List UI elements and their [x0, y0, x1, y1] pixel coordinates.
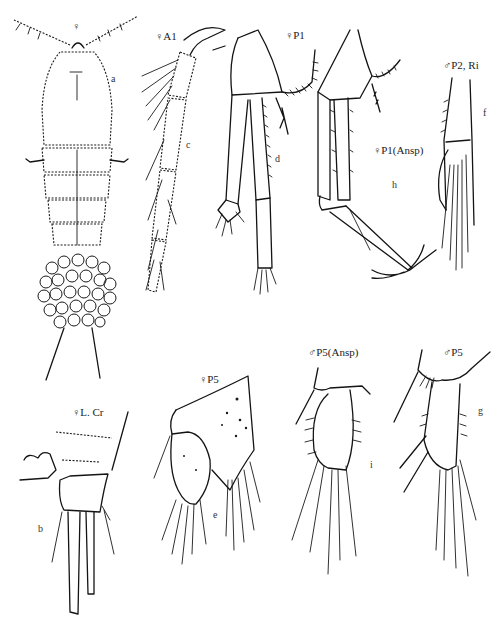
figure-plate: ♀ a ♀A1 c ♀P1 d ♀P1(Ansp) h ♂P2, Ri f ♀L…	[0, 0, 504, 633]
figure-b-caudal-ramus-drawing	[20, 412, 128, 614]
figure-b-title: ♀L. Cr	[72, 406, 103, 418]
figure-a-title: ♀	[72, 20, 80, 32]
figure-g-title: ♂P5	[443, 346, 463, 358]
figure-f-title: ♂P2, Ri	[443, 59, 479, 71]
figure-e-letter: e	[213, 510, 217, 520]
figure-d-letter: d	[275, 154, 280, 164]
plate-drawings	[0, 0, 504, 633]
figure-d-leg1-drawing	[216, 30, 318, 294]
figure-g-letter: g	[478, 406, 483, 416]
figure-h-title: ♀P1(Ansp)	[373, 144, 423, 156]
figure-a-habitus-drawing	[14, 16, 138, 380]
figure-i-leg5-ansp-drawing	[292, 368, 370, 574]
figure-b-letter: b	[38, 524, 43, 534]
figure-f-leg2-endopod-drawing	[439, 78, 474, 270]
figure-d-title: ♀P1	[285, 29, 305, 41]
figure-i-letter: i	[370, 460, 373, 470]
figure-g-leg5-drawing	[394, 350, 490, 576]
figure-i-title: ♂P5(Ansp)	[308, 346, 358, 358]
figure-e-title: ♀P5	[199, 373, 219, 385]
figure-c-antennule-drawing	[142, 28, 225, 292]
figure-a-letter: a	[111, 74, 115, 84]
figure-f-letter: f	[483, 108, 486, 118]
figure-h-letter: h	[392, 180, 397, 190]
figure-e-leg5-drawing	[154, 376, 260, 564]
figure-c-letter: c	[186, 140, 190, 150]
figure-c-title: ♀A1	[155, 30, 177, 42]
